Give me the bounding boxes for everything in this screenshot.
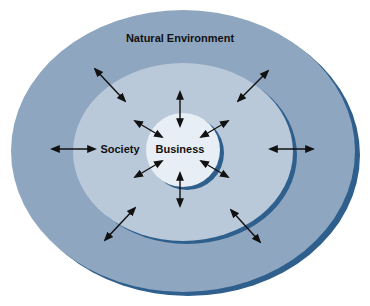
society-label: Society — [100, 143, 140, 155]
business-label: Business — [156, 143, 205, 155]
nested-ellipses-diagram: Natural Environment Society Business — [0, 0, 370, 306]
natural-environment-label: Natural Environment — [126, 32, 235, 44]
diagram-canvas: Natural Environment Society Business — [0, 0, 370, 306]
